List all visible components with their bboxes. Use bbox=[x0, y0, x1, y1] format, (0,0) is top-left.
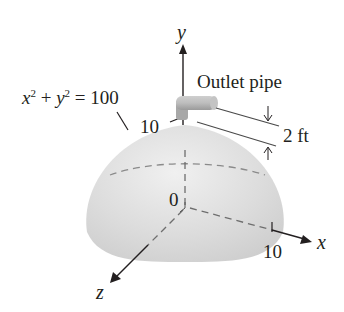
equation-equals: = bbox=[75, 87, 86, 108]
y-axis-arrowhead bbox=[179, 44, 187, 54]
equation-y: y bbox=[56, 87, 64, 108]
circle-equation-label: x2 + y2 = 100 bbox=[22, 88, 119, 107]
x-axis-arrowhead bbox=[300, 235, 312, 244]
z-axis-label: z bbox=[96, 282, 104, 302]
equation-plus: + bbox=[41, 87, 52, 108]
outlet-pipe-label: Outlet pipe bbox=[197, 72, 282, 91]
y-tick-label: 10 bbox=[140, 117, 159, 136]
equation-leader-line bbox=[117, 112, 128, 130]
diagram-svg bbox=[0, 0, 344, 312]
equation-x-exp: 2 bbox=[30, 87, 36, 99]
x-tick-label: 10 bbox=[263, 242, 282, 261]
y-axis-label: y bbox=[177, 22, 186, 42]
equation-value: 100 bbox=[90, 87, 119, 108]
origin-label: 0 bbox=[169, 190, 179, 209]
hemisphere bbox=[86, 125, 284, 262]
pipe-height-label: 2 ft bbox=[283, 126, 309, 145]
x-axis-label: x bbox=[317, 232, 326, 252]
hemisphere-tank-diagram: x2 + y2 = 100 10 Outlet pipe 2 ft y x z … bbox=[0, 0, 344, 312]
equation-y-exp: 2 bbox=[65, 87, 71, 99]
pipe-level-line bbox=[216, 108, 279, 126]
